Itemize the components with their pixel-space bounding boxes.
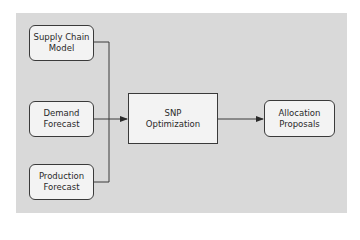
node-label-line2: Forecast (43, 119, 79, 130)
connector-production-forecast (94, 119, 109, 182)
node-supply-chain-model: Supply Chain Model (29, 25, 94, 61)
node-snp-optimization: SNP Optimization (128, 93, 218, 144)
connector-supply-chain (94, 42, 109, 119)
node-label-line2: Forecast (39, 182, 84, 193)
node-production-forecast: Production Forecast (29, 164, 94, 200)
node-label-line1: Allocation (279, 108, 321, 119)
node-label-line2: Model (34, 43, 90, 54)
node-label-line1: Production (39, 171, 84, 182)
node-label-line1: Supply Chain (34, 32, 90, 43)
node-allocation-proposals: Allocation Proposals (264, 100, 335, 137)
node-label-line2: Optimization (146, 119, 200, 130)
node-label-line2: Proposals (279, 119, 321, 130)
node-demand-forecast: Demand Forecast (29, 101, 94, 137)
node-label-line1: Demand (43, 108, 79, 119)
node-label-line1: SNP (146, 108, 200, 119)
